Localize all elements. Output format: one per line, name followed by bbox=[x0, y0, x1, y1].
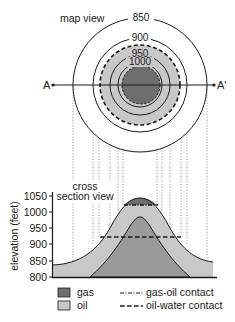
map-view-title: map view bbox=[60, 12, 105, 24]
section-start-dot bbox=[51, 83, 54, 86]
y-tick-1000: 1000 bbox=[24, 206, 48, 218]
section-start-label: A bbox=[43, 79, 51, 91]
y-tick-850: 850 bbox=[29, 255, 47, 267]
contour-label-900: 900 bbox=[132, 32, 149, 43]
map-view: map view 850 900 950 1000 A A' bbox=[43, 11, 226, 152]
y-tick-1050: 1050 bbox=[24, 190, 48, 202]
contour-label-1000: 1000 bbox=[129, 56, 152, 67]
y-tick-900: 900 bbox=[29, 238, 47, 250]
legend-gas-swatch bbox=[58, 288, 70, 297]
y-tick-800: 800 bbox=[29, 271, 47, 283]
oil-trap-diagram: map view 850 900 950 1000 A A' bbox=[0, 0, 235, 322]
contour-label-850: 850 bbox=[133, 12, 150, 23]
cross-section-view: 1050 1000 950 900 850 800 elevation (fee… bbox=[8, 180, 217, 283]
y-tick-950: 950 bbox=[29, 222, 47, 234]
legend: gas oil gas-oil contact oil-water contac… bbox=[58, 286, 223, 311]
legend-gas-label: gas bbox=[77, 286, 94, 298]
y-axis-label: elevation (feet) bbox=[8, 201, 20, 270]
cross-section-title-2: section view bbox=[56, 190, 114, 202]
section-end-label: A' bbox=[217, 79, 226, 91]
legend-gas-oil-label: gas-oil contact bbox=[146, 286, 214, 298]
legend-oil-label: oil bbox=[77, 299, 88, 311]
section-end-dot bbox=[212, 83, 215, 86]
legend-oil-swatch bbox=[58, 301, 70, 310]
legend-oil-water-label: oil-water contact bbox=[146, 299, 223, 311]
